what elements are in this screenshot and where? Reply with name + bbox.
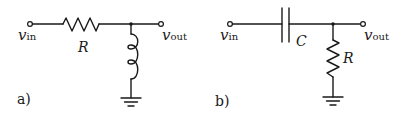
resistor-label-b: R <box>342 50 354 66</box>
vin-label-a: vin <box>18 26 37 44</box>
circuit-b: vin C R vout b) <box>215 8 389 109</box>
resistor-label-a: R <box>77 39 89 55</box>
circuit-a: vin R vout a) <box>17 18 187 107</box>
ground-icon <box>323 97 343 105</box>
resistor-b <box>327 40 339 77</box>
vin-label-b: vin <box>220 26 239 44</box>
circuit-diagram: vin R vout a) vin C R vout b <box>0 0 409 119</box>
resistor-a <box>63 18 99 31</box>
inductor-a <box>128 34 138 79</box>
ground-icon <box>121 98 141 106</box>
vout-label-a: vout <box>162 26 187 44</box>
panel-label-b: b) <box>215 93 229 109</box>
capacitor-label-b: C <box>296 33 307 49</box>
input-terminal-a <box>28 22 33 27</box>
panel-label-a: a) <box>17 91 31 107</box>
capacitor-b <box>282 8 289 42</box>
vout-label-b: vout <box>364 26 389 44</box>
